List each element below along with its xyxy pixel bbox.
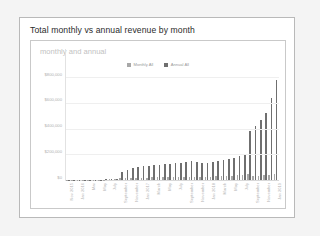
gridline	[66, 154, 279, 155]
bar-annual[interactable]	[153, 165, 155, 180]
bar-annual[interactable]	[127, 170, 129, 180]
page-title: Total monthly vs annual revenue by month	[30, 25, 195, 35]
x-axis-tick-label: Jan 2019	[277, 183, 282, 200]
bar-annual[interactable]	[244, 154, 246, 180]
x-axis	[66, 180, 279, 181]
bar-annual[interactable]	[185, 162, 187, 180]
y-axis-tick-label: $800,000	[45, 71, 62, 76]
bar-annual[interactable]	[116, 179, 118, 180]
chart-title: monthly and annual	[40, 47, 106, 56]
bar-annual[interactable]	[276, 80, 278, 180]
bar-annual[interactable]	[191, 161, 193, 180]
plot-area: $0$200,000$400,000$600,000$800,000	[66, 77, 279, 181]
y-axis-tick-label: $200,000	[45, 148, 62, 153]
bar-annual[interactable]	[132, 168, 134, 180]
y-axis-tick-label: $0	[57, 174, 62, 179]
bar-annual[interactable]	[217, 161, 219, 180]
bar-annual[interactable]	[228, 159, 230, 180]
bar-annual[interactable]	[271, 98, 273, 180]
bar-annual[interactable]	[175, 163, 177, 180]
chart-legend: Monthly AllAnnual All	[31, 62, 285, 67]
bar-annual[interactable]	[159, 165, 161, 180]
legend-swatch-icon	[127, 63, 131, 67]
x-axis-tick: Jan 2019	[274, 183, 279, 223]
gridline	[66, 103, 279, 104]
chart-panel: monthly and annual Monthly AllAnnual All…	[30, 40, 286, 209]
bar-annual[interactable]	[148, 166, 150, 180]
report-card: Total monthly vs annual revenue by month…	[19, 17, 295, 218]
legend-swatch-icon	[164, 63, 168, 67]
bar-annual[interactable]	[239, 156, 241, 180]
bar-annual[interactable]	[169, 164, 171, 180]
legend-item-monthly[interactable]: Monthly All	[127, 62, 153, 67]
bar-annual[interactable]	[255, 126, 257, 180]
legend-item-annual[interactable]: Annual All	[164, 62, 189, 67]
gridline	[66, 77, 279, 78]
bar-annual[interactable]	[180, 163, 182, 181]
bar-annual[interactable]	[265, 113, 267, 180]
x-axis-labels: Nov 2015Jan 2016MarMayJulySeptemberNovem…	[66, 183, 279, 223]
bar-annual[interactable]	[233, 158, 235, 180]
bar-annual[interactable]	[201, 163, 203, 180]
bar-annual[interactable]	[212, 162, 214, 180]
y-axis-tick-label: $600,000	[45, 97, 62, 102]
bar-group	[274, 80, 279, 180]
bar-annual[interactable]	[105, 179, 107, 180]
bar-annual[interactable]	[164, 164, 166, 180]
y-axis-tick-label: $400,000	[45, 123, 62, 128]
screenshot-root: Total monthly vs annual revenue by month…	[0, 0, 320, 236]
bar-annual[interactable]	[111, 179, 113, 180]
bar-annual[interactable]	[143, 166, 145, 180]
legend-label: Annual All	[171, 62, 189, 67]
bar-annual[interactable]	[196, 162, 198, 180]
bar-annual[interactable]	[137, 167, 139, 180]
bar-annual[interactable]	[223, 160, 225, 180]
bar-annual[interactable]	[249, 131, 251, 180]
gridline	[66, 129, 279, 130]
legend-label: Monthly All	[133, 62, 153, 67]
bar-annual[interactable]	[121, 172, 123, 180]
bar-annual[interactable]	[207, 163, 209, 181]
